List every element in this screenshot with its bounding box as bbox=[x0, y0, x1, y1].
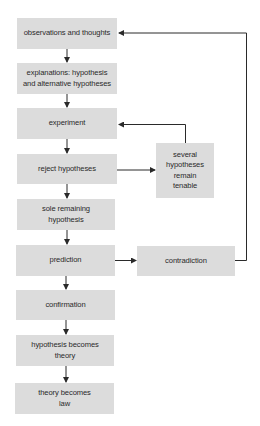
arrow-tenable-to-experiment bbox=[119, 125, 186, 144]
step-reject-hypotheses: reject hypotheses bbox=[17, 154, 117, 184]
step-label: explanations: hypothesis and alternative… bbox=[20, 68, 114, 89]
step-label: sole remaining hypothesis bbox=[31, 204, 101, 225]
step-experiment: experiment bbox=[17, 108, 117, 139]
step-theory-becomes-law: theory becomes law bbox=[15, 383, 114, 414]
step-label: confirmation bbox=[45, 300, 85, 311]
step-sole-remaining-hypothesis: sole remaining hypothesis bbox=[17, 199, 115, 230]
step-contradiction: contradiction bbox=[137, 246, 235, 276]
step-label: contradiction bbox=[165, 256, 207, 267]
step-label: prediction bbox=[50, 255, 82, 266]
step-observations: observations and thoughts bbox=[17, 18, 117, 49]
step-label: reject hypotheses bbox=[38, 164, 96, 175]
step-hypothesis-becomes-theory: hypothesis becomes theory bbox=[16, 335, 114, 366]
step-prediction: prediction bbox=[16, 245, 115, 276]
step-label: theory becomes law bbox=[37, 388, 92, 409]
step-several-hypotheses-tenable: several hypotheses remain tenable bbox=[156, 143, 214, 198]
step-label: observations and thoughts bbox=[24, 28, 111, 39]
step-label: several hypotheses remain tenable bbox=[162, 150, 208, 192]
step-label: hypothesis becomes theory bbox=[28, 340, 102, 361]
step-explanations: explanations: hypothesis and alternative… bbox=[17, 63, 117, 94]
step-label: experiment bbox=[49, 118, 86, 129]
step-confirmation: confirmation bbox=[16, 290, 115, 320]
